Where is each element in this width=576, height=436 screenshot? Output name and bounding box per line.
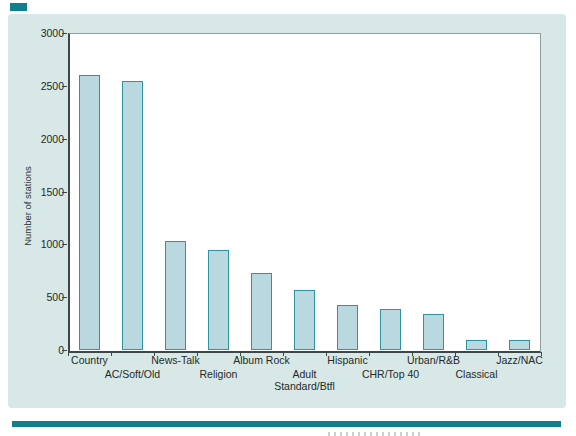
y-tick-mark [62, 86, 67, 87]
x-category-label: Religion [171, 368, 267, 380]
bar-classical [466, 340, 487, 350]
x-category-label: AdultStandard/Btfl [257, 368, 353, 392]
y-tick-label: 1000 [22, 239, 64, 249]
y-tick-mark [62, 192, 67, 193]
y-tick-mark [62, 139, 67, 140]
x-category-label: Country [42, 354, 138, 366]
bar-religion [208, 250, 229, 350]
bottom-rule [12, 421, 561, 427]
y-axis-title: Number of stations [22, 166, 33, 246]
y-tick-label: 2500 [22, 81, 64, 91]
bar-hispanic [337, 305, 358, 350]
y-tick-mark [62, 244, 67, 245]
y-tick-label: 1500 [22, 187, 64, 197]
y-tick-label: 2000 [22, 134, 64, 144]
bar-ac-soft-old [122, 81, 143, 350]
bar-country [79, 75, 100, 350]
y-tick-mark [62, 297, 67, 298]
x-category-label: Album Rock [214, 354, 310, 366]
x-category-label: Urban/R&B [386, 354, 482, 366]
x-category-label: CHR/Top 40 [343, 368, 439, 380]
y-tick-label: 500 [22, 292, 64, 302]
x-category-label: Jazz/NAC [472, 354, 568, 366]
x-category-label: News-Talk [128, 354, 224, 366]
x-category-label: Classical [429, 368, 525, 380]
scan-artifact-mark [10, 3, 27, 11]
bar-urban-r-b [423, 314, 444, 350]
y-tick-mark [62, 33, 67, 34]
x-category-label: Hispanic [300, 354, 396, 366]
x-category-label: AC/Soft/Old [85, 368, 181, 380]
y-tick-mark [62, 350, 67, 351]
bar-adult-standard-btfl [294, 290, 315, 350]
bar-album-rock [251, 273, 272, 350]
y-tick-label: 3000 [22, 28, 64, 38]
bar-jazz-nac [509, 340, 530, 350]
clipped-caption-artifact [328, 432, 424, 436]
bar-news-talk [165, 241, 186, 350]
bar-chr-top-40 [380, 309, 401, 350]
